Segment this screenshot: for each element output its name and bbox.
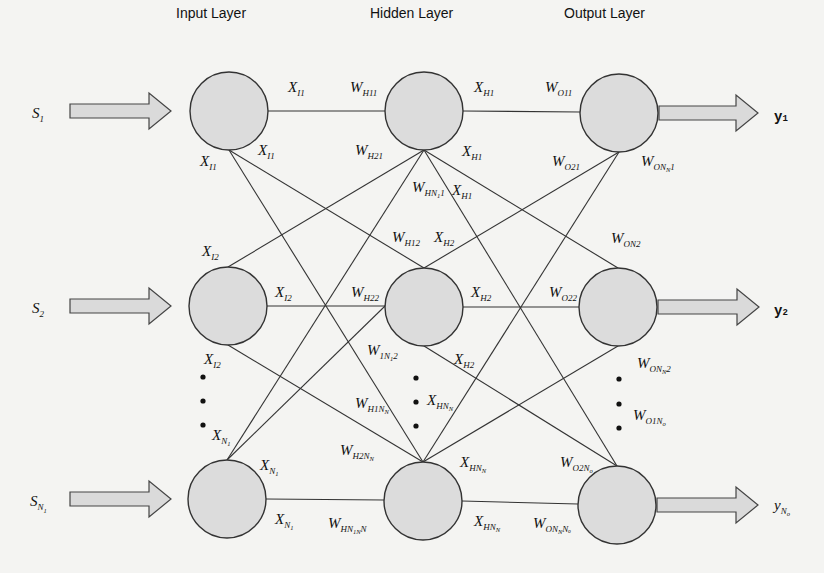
neural-network-diagram: Input Layer Hidden Layer Output Layer	[0, 0, 824, 573]
input-arrow-2	[70, 288, 171, 324]
input-edge-label: XN1	[274, 511, 293, 531]
hidden-weight-label: WH2NN	[340, 442, 375, 462]
hidden-node-1	[385, 72, 463, 150]
input-layer-nodes	[188, 72, 268, 538]
hidden-edge-label: XH1	[473, 79, 494, 98]
output-node-1	[580, 74, 658, 152]
output-label-2: y2	[774, 303, 788, 319]
hidden-node-2	[385, 268, 463, 346]
output-node-n	[578, 466, 656, 544]
hidden-edge-label: XH1	[461, 143, 482, 162]
hidden-edge-label: XH2	[470, 284, 492, 303]
hidden-weight-label: W1N12	[367, 342, 398, 362]
output-arrow-1	[659, 95, 758, 131]
output-arrows	[657, 95, 759, 523]
input-label-1: S1	[32, 105, 44, 124]
hidden-weight-label: WHN1NN	[328, 515, 368, 535]
input-edge-label: XI2	[201, 243, 219, 262]
output-label-1: y1	[774, 109, 788, 125]
hidden-edge-label: XHNN	[473, 513, 501, 533]
hidden-layer-nodes	[384, 72, 463, 540]
output-node-2	[579, 268, 657, 346]
input-edge-label: XI1	[199, 153, 217, 172]
input-edge-label: XI2	[274, 284, 292, 303]
output-weight-label: WO2No	[560, 454, 594, 474]
output-weight-label: WONN2	[637, 355, 671, 375]
input-edge-label: XI1	[287, 79, 305, 98]
input-arrows	[70, 93, 171, 517]
output-arrow-2	[658, 289, 759, 325]
hidden-edge-label: XH2	[453, 351, 475, 370]
input-node-1	[190, 72, 268, 150]
hidden-weight-label: WHN11	[412, 179, 445, 199]
layer-title-input: Input Layer	[176, 5, 246, 21]
hidden-weight-label: WH11	[350, 79, 377, 98]
input-edge-label: XN1	[259, 457, 278, 477]
layer-title-output: Output Layer	[564, 5, 645, 21]
input-edge-label: XI1	[257, 142, 275, 161]
output-weight-label: WO11	[545, 79, 572, 98]
output-arrow-n	[657, 487, 758, 523]
output-weight-label: WO1No	[633, 407, 667, 427]
output-weight-label: WO22	[549, 284, 577, 303]
input-source-labels: S1 S2 SN1	[30, 105, 47, 514]
input-arrow-n	[70, 481, 171, 517]
input-edge-label: XI2	[203, 351, 221, 370]
output-weight-label: WONNNₒ	[533, 515, 571, 535]
input-label-n: SN1	[30, 493, 47, 514]
layer-title-hidden: Hidden Layer	[370, 5, 454, 21]
input-node-n	[188, 460, 266, 538]
hidden-node-n	[384, 462, 462, 540]
hidden-edge-label: XH2	[433, 229, 455, 248]
hidden-edge-label: XHNN	[459, 454, 487, 474]
input-edge-label: XN1	[211, 427, 230, 447]
input-node-2	[189, 267, 267, 345]
output-weight-label: WO21	[552, 153, 580, 172]
input-label-2: S2	[32, 300, 45, 319]
hidden-weight-label: WH22	[351, 284, 379, 303]
hidden-weight-label: WH1NN	[355, 395, 390, 415]
output-labels: y1 y2 yNo	[772, 109, 791, 517]
hidden-edge-label: XHNN	[426, 392, 454, 412]
hidden-weight-label: WH12	[392, 229, 420, 248]
hidden-edge-label: XH1	[451, 182, 472, 201]
output-weight-label: WON2	[611, 230, 641, 249]
output-weight-label: WONN1	[641, 153, 675, 173]
hidden-weight-label: WH21	[355, 142, 383, 161]
output-label-n: yNo	[772, 497, 791, 517]
input-arrow-1	[70, 93, 171, 129]
